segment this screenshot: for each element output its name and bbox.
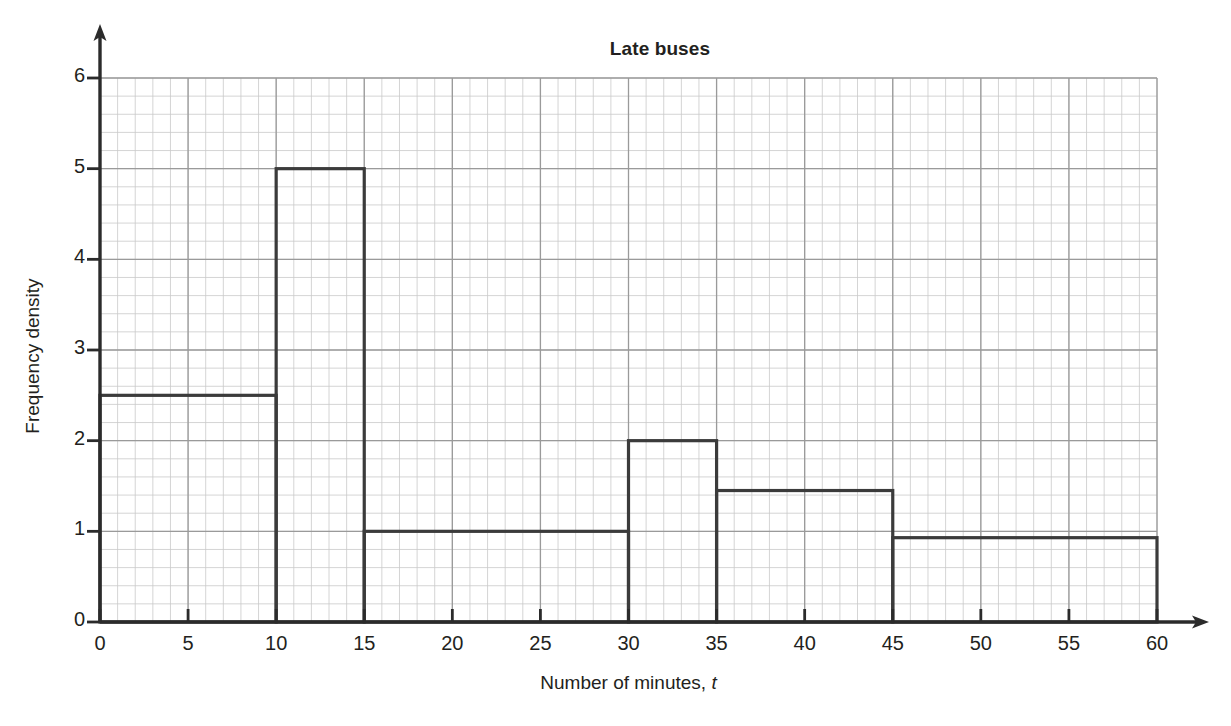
histogram-bar: [276, 169, 364, 622]
x-axis-tick-label: 30: [599, 632, 659, 655]
x-axis-tick-label: 40: [775, 632, 835, 655]
y-axis-tick-label: 5: [45, 155, 85, 178]
x-axis-tick-label: 0: [70, 632, 130, 655]
y-axis-tick-label: 1: [45, 517, 85, 540]
histogram-bar: [893, 538, 1157, 622]
x-axis-tick-label: 50: [951, 632, 1011, 655]
histogram-figure: Late buses Frequency density Number of m…: [0, 0, 1231, 726]
x-axis-tick-label: 5: [158, 632, 218, 655]
x-axis-tick-label: 60: [1127, 632, 1187, 655]
x-axis-tick-label: 35: [687, 632, 747, 655]
histogram-bar-outline: [364, 531, 628, 622]
y-axis-tick-label: 4: [45, 245, 85, 268]
x-axis-tick-label: 10: [246, 632, 306, 655]
plot-canvas: [0, 0, 1231, 726]
y-axis-tick-label: 0: [45, 608, 85, 631]
x-axis-tick-label: 45: [863, 632, 923, 655]
histogram-bar: [364, 531, 628, 622]
x-axis-tick-label: 20: [422, 632, 482, 655]
y-axis-tick-label: 6: [45, 64, 85, 87]
x-axis-tick-label: 55: [1039, 632, 1099, 655]
x-axis-tick-label: 15: [334, 632, 394, 655]
y-axis-tick-label: 2: [45, 427, 85, 450]
histogram-bar-outline: [893, 538, 1157, 622]
y-axis-tick-label: 3: [45, 336, 85, 359]
x-axis-tick-label: 25: [510, 632, 570, 655]
histogram-bar-outline: [276, 169, 364, 622]
